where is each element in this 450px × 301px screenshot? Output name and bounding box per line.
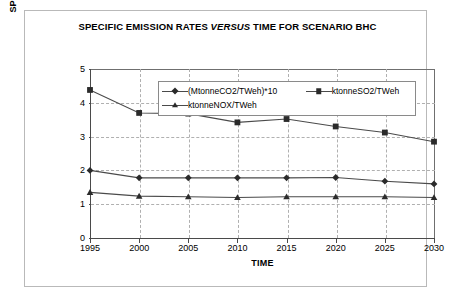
x-axis-tick-mark [434,239,435,243]
y-axis-title-line2: xtonneXO2/TWeh [19,0,30,53]
series-mtonneco2-tweh-10 [87,167,438,187]
x-axis-tick-label: 2000 [114,243,164,253]
y-axis-tick-label: 4 [65,98,85,108]
legend-row: (MtonneCO2/TWeh)*10 ktonneSO2/TWeh [162,84,412,98]
x-axis-tick-label: 2030 [409,243,450,253]
data-point-square [284,116,290,122]
x-axis-tick-mark [90,239,91,243]
x-axis-tick-mark [336,239,337,243]
x-axis-tick-mark [188,239,189,243]
legend-label-so2: ktonneSO2/TWeh [332,86,399,96]
data-point-square [333,124,339,130]
series-line [90,192,434,197]
y-axis-tick-label: 2 [65,165,85,175]
data-point-diamond [136,174,143,181]
data-point-square [235,120,241,126]
chart-title-line2: BHC [356,21,377,32]
data-point-diamond [283,174,290,181]
data-point-diamond [185,174,192,181]
data-point-diamond [381,178,388,185]
y-axis-tick-label: 0 [65,233,85,243]
data-point-square [87,87,93,93]
data-point-diamond [431,181,438,188]
chart-title-suffix: TIME FOR SCENARIO [250,21,353,32]
legend-label-nox: ktonneNOX/TWeh [188,100,257,110]
x-axis-tick-label: 2010 [212,243,262,253]
y-axis-title: SPECIFIC EMISSION RATE, xtonneXO2/TWeh [8,0,30,53]
data-point-square [431,139,437,145]
data-point-square [382,130,388,136]
x-axis-tick-mark [385,239,386,243]
legend-entry-co2[interactable]: (MtonneCO2/TWeh)*10 [162,84,306,98]
x-axis-tick-label: 1995 [65,243,115,253]
diamond-marker-icon [162,85,188,97]
y-axis-ticks: 012345 [63,69,85,238]
x-axis-tick-mark [139,239,140,243]
x-axis-tick-label: 2025 [360,243,410,253]
x-axis-tick-label: 2015 [262,243,312,253]
data-point-diamond [87,167,94,174]
chart-title: SPECIFIC EMISSION RATES VERSUS TIME FOR … [55,21,400,34]
data-point-square [136,110,142,116]
triangle-marker-icon [162,99,188,111]
y-axis-tick-label: 5 [65,64,85,74]
x-axis-tick-mark [237,239,238,243]
legend-entry-so2[interactable]: ktonneSO2/TWeh [306,84,412,98]
x-axis-tick-mark [287,239,288,243]
y-axis-title-line1: SPECIFIC EMISSION RATE, [8,0,19,53]
chart-container: SPECIFIC EMISSION RATES VERSUS TIME FOR … [24,10,427,287]
chart-title-emphasis: VERSUS [211,21,251,32]
data-point-diamond [332,174,339,181]
x-axis-title: TIME [90,258,435,268]
x-axis-tick-label: 2005 [163,243,213,253]
y-axis-tick-label: 1 [65,199,85,209]
x-axis-tick-label: 2020 [311,243,361,253]
chart-legend: (MtonneCO2/TWeh)*10 ktonneSO2/TWeh ktonn… [158,81,416,116]
data-point-diamond [234,174,241,181]
legend-label-co2: (MtonneCO2/TWeh)*10 [188,86,277,96]
legend-entry-nox[interactable]: ktonneNOX/TWeh [162,98,308,112]
chart-title-prefix: SPECIFIC EMISSION RATES [79,21,211,32]
legend-row: ktonneNOX/TWeh [162,98,412,112]
y-axis-tick-label: 3 [65,132,85,142]
square-marker-icon [306,85,332,97]
series-ktonnenox-tweh [87,189,438,200]
chart-title-line1: SPECIFIC EMISSION RATES VERSUS TIME FOR … [79,21,353,32]
